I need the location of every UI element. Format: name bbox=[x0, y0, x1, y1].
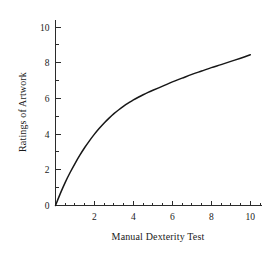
x-axis-tick-labels: 246810 bbox=[92, 212, 255, 222]
data-series-group bbox=[56, 55, 251, 206]
y-tick-label: 4 bbox=[45, 130, 50, 140]
x-axis-title: Manual Dexterity Test bbox=[112, 231, 205, 242]
axes-group bbox=[55, 20, 262, 206]
y-tick-label: 10 bbox=[40, 23, 50, 33]
y-axis-title: Ratings of Artwork bbox=[17, 72, 28, 152]
y-tick-label: 8 bbox=[45, 58, 50, 68]
y-tick-label: 6 bbox=[45, 94, 50, 104]
y-tick-label: 2 bbox=[45, 165, 50, 175]
data-curve-ratings-curve bbox=[56, 55, 251, 206]
chart-figure: 0246810 246810 Manual Dexterity Test Rat… bbox=[0, 0, 278, 253]
x-axis-ticks bbox=[65, 201, 260, 206]
y-axis-tick-labels: 0246810 bbox=[40, 23, 50, 211]
y-axis-ticks bbox=[56, 27, 61, 205]
chart-plot-area: 0246810 246810 Manual Dexterity Test Rat… bbox=[0, 0, 278, 253]
x-tick-label: 8 bbox=[209, 212, 214, 222]
x-tick-label: 6 bbox=[170, 212, 175, 222]
y-tick-label: 0 bbox=[45, 201, 50, 211]
x-tick-label: 4 bbox=[131, 212, 136, 222]
x-tick-label: 2 bbox=[92, 212, 97, 222]
x-tick-label: 10 bbox=[246, 212, 256, 222]
